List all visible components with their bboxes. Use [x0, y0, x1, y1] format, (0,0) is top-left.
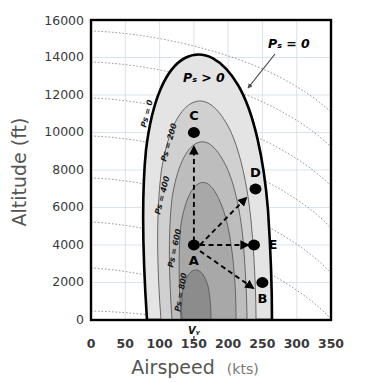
xtick-350: 350 — [318, 336, 344, 351]
x-axis-tick-labels: 0 50 100 150 200 250 300 350 — [87, 336, 345, 351]
data-point-c[interactable] — [188, 127, 200, 138]
xtick-0: 0 — [87, 336, 96, 351]
ytick-10000: 10000 — [44, 124, 84, 139]
y-axis-tick-labels: 0 2000 4000 6000 8000 10000 12000 14000 … — [44, 13, 84, 327]
xtick-250: 250 — [249, 336, 275, 351]
ytick-4000: 4000 — [52, 237, 84, 252]
data-point-label-e: E — [269, 237, 278, 252]
ytick-6000: 6000 — [52, 199, 84, 214]
data-point-label-c: C — [189, 108, 199, 123]
ytick-2000: 2000 — [52, 274, 84, 289]
vy-marker-label: Vᵧ — [188, 325, 201, 336]
ytick-14000: 14000 — [44, 49, 84, 64]
data-point-e[interactable] — [248, 240, 260, 251]
data-point-b[interactable] — [256, 277, 268, 288]
ytick-16000: 16000 — [44, 13, 84, 28]
chart-svg: Ps = 0 Ps = 200 Ps = 400 Ps = 600 Ps = 8… — [0, 0, 372, 383]
ps-positive-region-label: Pₛ > 0 — [183, 70, 225, 85]
data-point-a[interactable] — [188, 240, 200, 251]
ytick-12000: 12000 — [44, 87, 84, 102]
ytick-0: 0 — [76, 312, 84, 327]
data-point-d[interactable] — [250, 184, 262, 195]
xtick-150: 150 — [181, 336, 207, 351]
ps-contour-chart: Ps = 0 Ps = 200 Ps = 400 Ps = 600 Ps = 8… — [0, 0, 372, 383]
ps-zero-callout-label: Pₛ = 0 — [268, 36, 310, 51]
data-point-label-b: B — [257, 291, 267, 306]
x-axis-title: Airspeed (kts) — [131, 356, 258, 378]
xtick-50: 50 — [117, 336, 135, 351]
data-point-label-d: D — [250, 165, 261, 180]
xtick-100: 100 — [147, 336, 173, 351]
y-axis-title: Altitude (ft) — [8, 118, 30, 227]
data-point-label-a: A — [189, 253, 199, 268]
xtick-200: 200 — [215, 336, 241, 351]
ytick-8000: 8000 — [52, 162, 84, 177]
x-axis-unit: (kts) — [227, 361, 259, 377]
x-axis-title-text: Airspeed — [131, 356, 215, 378]
xtick-300: 300 — [284, 336, 310, 351]
